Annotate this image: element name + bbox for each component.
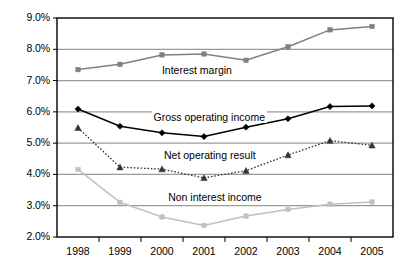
series-label-net-operating-result: Net operating result — [162, 149, 258, 161]
series-marker — [118, 200, 122, 204]
series-marker — [202, 52, 206, 56]
y-axis-tick-label: 5.0% — [26, 136, 50, 148]
series-marker — [328, 202, 332, 206]
series-marker — [160, 215, 164, 219]
line-chart: 2.0%3.0%4.0%5.0%6.0%7.0%8.0%9.0%19981999… — [0, 0, 405, 267]
series-marker — [160, 53, 164, 57]
series-marker — [202, 223, 206, 227]
chart-plot-area — [0, 0, 405, 267]
series-marker — [76, 67, 80, 71]
series-label-gross-operating-income: Gross operating income — [152, 111, 267, 123]
x-axis-tick-label: 2005 — [347, 245, 397, 257]
series-marker — [328, 28, 332, 32]
y-axis-tick-label: 2.0% — [26, 230, 50, 242]
y-axis-tick-label: 9.0% — [26, 11, 50, 23]
series-label-non-interest-income: Non interest income — [166, 191, 263, 203]
series-marker — [370, 200, 374, 204]
series-marker — [370, 24, 374, 28]
y-axis-tick-label: 3.0% — [26, 199, 50, 211]
series-marker — [244, 58, 248, 62]
y-axis-tick-label: 6.0% — [26, 105, 50, 117]
series-marker — [118, 62, 122, 66]
y-axis-tick-label: 7.0% — [26, 74, 50, 86]
series-label-interest-margin: Interest margin — [160, 64, 234, 76]
y-axis-tick-label: 8.0% — [26, 42, 50, 54]
series-marker — [286, 45, 290, 49]
series-marker — [244, 214, 248, 218]
y-axis-tick-label: 4.0% — [26, 167, 50, 179]
series-marker — [286, 207, 290, 211]
series-marker — [76, 167, 80, 171]
